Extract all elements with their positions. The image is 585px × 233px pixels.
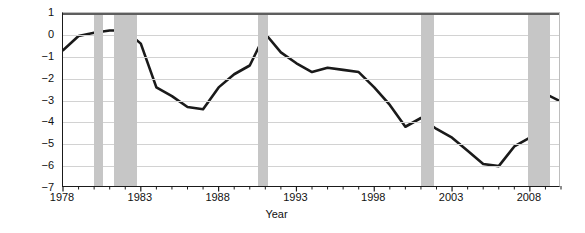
header-bar — [63, 13, 559, 15]
chart-figure: Current-account surplus (+) or deficit (… — [0, 0, 585, 233]
x-axis-tick-labels: 1978198319881993199820032008 — [0, 191, 585, 207]
x-tick-label: 1983 — [128, 191, 152, 203]
y-tick-label: 0 — [32, 28, 54, 39]
gridline — [63, 57, 559, 58]
gridline — [63, 144, 559, 145]
y-tick-label: 1 — [32, 7, 54, 18]
recession-1981-1982 — [114, 13, 137, 186]
x-tick-label: 1978 — [50, 191, 74, 203]
data-line-current-account — [63, 31, 559, 167]
y-axis-title: Current-account surplus (+) or deficit (… — [0, 0, 34, 200]
y-tick-label: −2 — [32, 72, 54, 83]
recession-2007-2009 — [528, 13, 551, 186]
gridline — [63, 122, 559, 123]
x-tick-label: 2003 — [439, 191, 463, 203]
plot-area — [62, 12, 560, 187]
x-axis-title: Year — [0, 208, 585, 220]
y-tick-label: −5 — [32, 138, 54, 149]
x-tick-label: 2008 — [517, 191, 541, 203]
y-tick-label: −3 — [32, 94, 54, 105]
recession-2001 — [421, 13, 434, 186]
x-axis-title-text: Year — [265, 208, 287, 220]
recession-1990-1991 — [258, 13, 269, 186]
plot-inner — [63, 13, 559, 186]
y-tick-label: −4 — [32, 116, 54, 127]
data-line-layer — [63, 13, 559, 186]
x-tick-label: 1998 — [361, 191, 385, 203]
gridline — [63, 101, 559, 102]
gridline — [63, 166, 559, 167]
gridline — [63, 79, 559, 80]
y-tick-label: −1 — [32, 50, 54, 61]
x-tick-label: 1988 — [205, 191, 229, 203]
y-tick-label: −6 — [32, 160, 54, 171]
gridline — [63, 35, 559, 36]
recession-1980 — [94, 13, 103, 186]
x-tick-label: 1993 — [283, 191, 307, 203]
